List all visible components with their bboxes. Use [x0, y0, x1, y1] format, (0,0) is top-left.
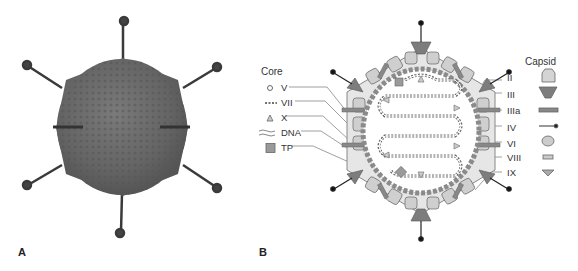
bar-icon	[539, 108, 558, 112]
virion-3d-illustration	[0, 0, 260, 271]
fiber-icon	[539, 124, 558, 128]
oval-icon	[542, 136, 554, 146]
terminal-protein	[395, 78, 403, 86]
panel-a-virion-rendering: A	[0, 0, 260, 271]
panel-label-a: A	[18, 246, 26, 258]
small-triangle-icon	[542, 170, 554, 176]
hexon-icon	[542, 69, 555, 82]
small-rect-icon	[543, 155, 553, 159]
penton-base-icon	[539, 87, 557, 98]
virion-cross-section	[255, 0, 578, 271]
capsid-legend-icons	[539, 69, 558, 176]
panel-b-schematic: B Core V VII X DNA TP Capsid II III IIIa…	[255, 0, 578, 271]
